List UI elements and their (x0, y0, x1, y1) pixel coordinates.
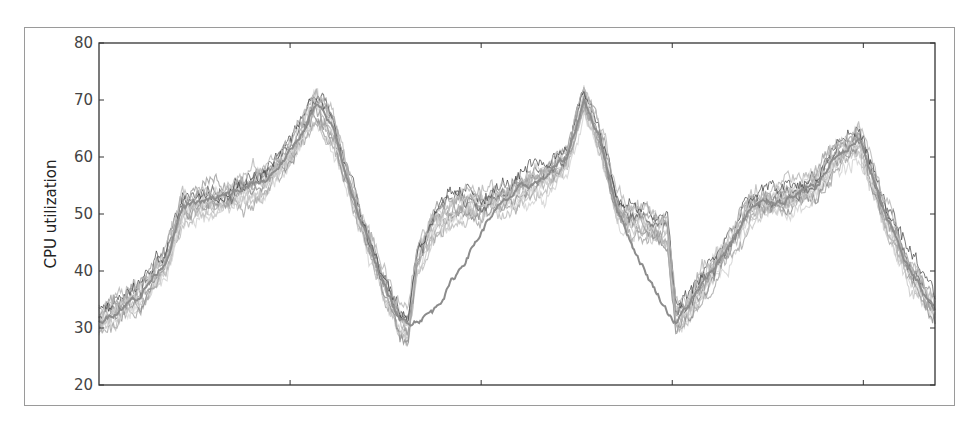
outlier-series-line (99, 99, 935, 326)
data-band (99, 85, 935, 346)
band-series-line (99, 106, 935, 344)
band-series-line (99, 106, 935, 335)
band-series-line (99, 112, 935, 345)
band-series-line (99, 99, 935, 326)
y-tick-label: 40 (74, 262, 93, 280)
band-series-line (99, 102, 935, 335)
outlier-series-path (99, 99, 935, 326)
y-tick-label: 20 (74, 376, 93, 394)
band-series-line (99, 100, 935, 335)
y-tick-label: 80 (74, 34, 93, 52)
y-tick-label: 30 (74, 319, 93, 337)
y-axis-label: CPU utilization (42, 160, 60, 269)
band-series-line (99, 102, 935, 346)
band-series-line (99, 104, 935, 340)
y-tick-label: 60 (74, 148, 93, 166)
plot-area (99, 43, 935, 385)
y-tick-label: 50 (74, 205, 93, 223)
y-tick-label: 70 (74, 91, 93, 109)
line-chart: 20304050607080 CPU utilization (0, 0, 977, 425)
